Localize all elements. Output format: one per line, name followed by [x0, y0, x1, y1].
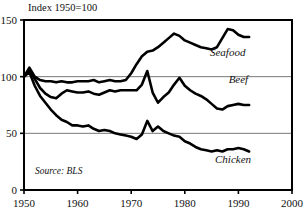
gridlines — [24, 77, 292, 134]
x-tick-label-2000: 2000 — [281, 197, 304, 209]
y-tick-label-0: 0 — [12, 184, 18, 196]
source-note: Source: BLS — [35, 166, 83, 176]
series-label-beef: Beef — [229, 73, 250, 85]
y-tick-label-150: 150 — [1, 14, 18, 26]
y-tick-label-100: 100 — [1, 71, 18, 83]
chart-figure: Index 1950=100 050100150 195019601970198… — [0, 0, 305, 213]
x-axis-tick-labels: 195019601970198019902000 — [13, 197, 304, 209]
y-axis-tick-labels: 050100150 — [1, 14, 18, 196]
chart-title: Index 1950=100 — [28, 2, 97, 13]
series-line-beef — [24, 70, 249, 110]
x-tick-label-1970: 1970 — [120, 197, 143, 209]
x-tick-label-1990: 1990 — [227, 197, 250, 209]
series-label-chicken: Chicken — [215, 153, 252, 165]
series-label-seafood: Seafood — [210, 46, 246, 58]
x-tick-label-1960: 1960 — [67, 197, 90, 209]
x-tick-label-1950: 1950 — [13, 197, 36, 209]
x-tick-label-1980: 1980 — [174, 197, 197, 209]
series-line-chicken — [24, 72, 249, 151]
price-index-line-chart: Index 1950=100 050100150 195019601970198… — [0, 0, 305, 213]
y-tick-label-50: 50 — [6, 127, 18, 139]
